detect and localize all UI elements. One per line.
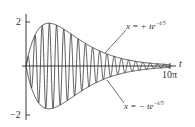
upper-label-leader — [105, 30, 126, 53]
lower-envelope-label: x = − te−t/5 — [124, 100, 164, 111]
y-tick-label-neg2: −2 — [10, 109, 21, 120]
x-axis-label: t — [179, 58, 182, 69]
x-tick-label-10pi: 10π — [162, 69, 177, 80]
upper-envelope-label: x = + te−t/5 — [126, 20, 166, 31]
lower-label-leader — [107, 80, 124, 103]
y-tick-label-2: 2 — [16, 16, 21, 27]
oscillating-curve — [26, 23, 170, 108]
